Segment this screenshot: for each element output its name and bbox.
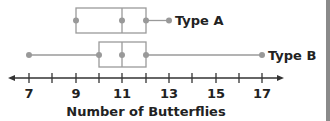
axis-arrow-right-icon (277, 75, 284, 81)
x-axis (12, 73, 280, 83)
svg-text:7: 7 (24, 86, 33, 101)
svg-text:15: 15 (207, 86, 225, 101)
svg-text:13: 13 (160, 86, 178, 101)
x-axis-title: Number of Butterflies (66, 104, 226, 119)
svg-text:11: 11 (113, 86, 131, 101)
series-label-type-a: Type A (175, 13, 224, 28)
svg-text:17: 17 (253, 86, 271, 101)
box-plot-chart: Type A Type B 7 9 11 13 15 17 (0, 0, 330, 121)
x-tick-labels: 7 9 11 13 15 17 (24, 86, 271, 101)
axis-arrow-left-icon (8, 75, 15, 81)
svg-text:9: 9 (71, 86, 80, 101)
series-label-type-b: Type B (268, 48, 316, 63)
right-edge-border (326, 0, 330, 121)
